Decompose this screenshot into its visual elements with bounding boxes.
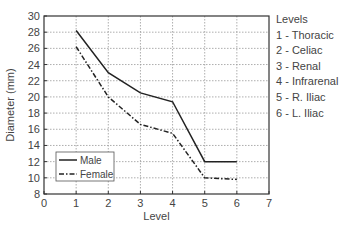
y-tick-label: 8 [34, 188, 40, 200]
x-tick-label: 4 [170, 197, 176, 209]
levels-annotation: Levels 1 - Thoracic 2 - Celiac 3 - Renal… [276, 12, 338, 121]
x-tick-label: 2 [105, 197, 111, 209]
y-tick-label: 12 [28, 156, 40, 168]
level-item: 4 - Infrarenal [276, 74, 338, 90]
y-tick-label: 10 [28, 172, 40, 184]
y-tick-label: 18 [28, 107, 40, 119]
y-tick-label: 20 [28, 91, 40, 103]
level-item: 2 - Celiac [276, 43, 338, 59]
x-tick-label: 5 [202, 197, 208, 209]
y-tick-label: 24 [28, 59, 40, 71]
level-item: 6 - L. Iliac [276, 106, 338, 122]
legend-label: Female [80, 169, 114, 180]
level-item: 3 - Renal [276, 59, 338, 75]
level-item: 1 - Thoracic [276, 28, 338, 44]
series-male [76, 31, 237, 162]
y-tick-label: 16 [28, 123, 40, 135]
y-tick-label: 22 [28, 75, 40, 87]
y-tick-label: 30 [28, 10, 40, 22]
level-item: 5 - R. Iliac [276, 90, 338, 106]
y-tick-label: 14 [28, 139, 40, 151]
x-axis-label: Level [143, 210, 169, 222]
x-tick-label: 6 [234, 197, 240, 209]
levels-title: Levels [276, 12, 338, 28]
x-tick-label: 3 [137, 197, 143, 209]
x-tick-label: 1 [73, 197, 79, 209]
y-tick-label: 28 [28, 26, 40, 38]
x-tick-label: 7 [266, 197, 272, 209]
y-tick-label: 26 [28, 42, 40, 54]
x-tick-label: 0 [41, 197, 47, 209]
legend-label: Male [80, 155, 102, 166]
y-axis-label: Diameter (mm) [4, 68, 16, 141]
